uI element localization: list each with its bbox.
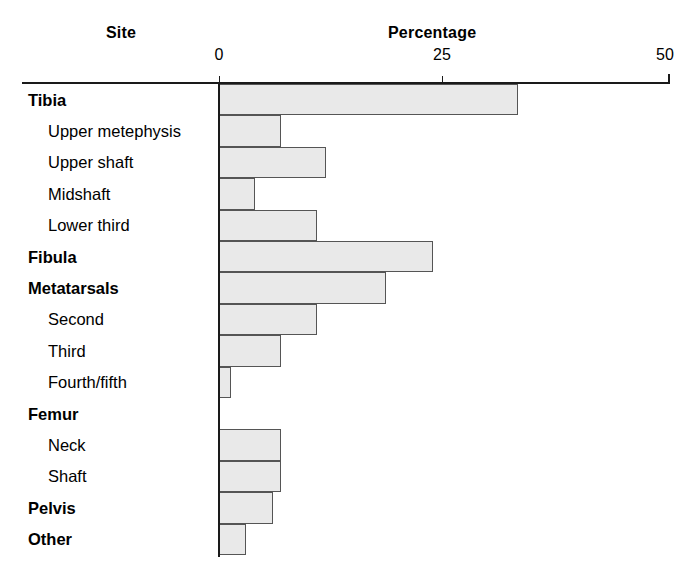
x-axis-end-tick (668, 74, 670, 84)
bar-row-label: Tibia (28, 91, 66, 108)
bar (219, 304, 317, 335)
percentage-column-title: Percentage (388, 24, 476, 42)
bar-row-label: Upper shaft (48, 154, 133, 171)
bar-row: Midshaft (0, 178, 686, 209)
bar-row-label: Femur (28, 405, 78, 422)
bar-row: Upper metephysis (0, 115, 686, 146)
site-column-title: Site (106, 24, 136, 42)
bar-row: Shaft (0, 461, 686, 492)
bar-row: Second (0, 304, 686, 335)
bar (219, 429, 281, 460)
bar (219, 115, 281, 146)
bar-row-label: Metatarsals (28, 280, 119, 297)
bar (219, 241, 433, 272)
bar (219, 335, 281, 366)
bar-row: Lower third (0, 210, 686, 241)
bar-row: Pelvis (0, 492, 686, 523)
bar (219, 367, 231, 398)
bar (219, 178, 255, 209)
bar-row: Fourth/fifth (0, 367, 686, 398)
bar-row-label: Third (48, 343, 86, 360)
bar-row-label: Other (28, 531, 72, 548)
zero-baseline (218, 84, 220, 557)
bar-row: Fibula (0, 241, 686, 272)
plot-area: TibiaUpper metephysisUpper shaftMidshaft… (0, 84, 686, 559)
x-axis-tick-label: 0 (215, 46, 224, 64)
bar-row-label: Shaft (48, 468, 87, 485)
bar (219, 210, 317, 241)
bar-row: Metatarsals (0, 272, 686, 303)
bar-row-label: Fibula (28, 248, 77, 265)
bar-chart: Site Percentage 02550 TibiaUpper metephy… (0, 0, 686, 571)
bar-row: Other (0, 524, 686, 555)
bar-row-label: Neck (48, 437, 86, 454)
x-axis-tick-label: 25 (433, 46, 451, 64)
bar-row-label: Lower third (48, 217, 130, 234)
bar-row-label: Midshaft (48, 186, 110, 203)
bar-row: Third (0, 335, 686, 366)
x-axis-tick-label: 50 (656, 46, 674, 64)
bar-row-label: Fourth/fifth (48, 374, 127, 391)
bar (219, 272, 386, 303)
bar (219, 492, 273, 523)
bar-row: Femur (0, 398, 686, 429)
bar (219, 84, 518, 115)
bar-row: Upper shaft (0, 147, 686, 178)
bar-row-label: Second (48, 311, 104, 328)
bar-row-label: Pelvis (28, 500, 76, 517)
bar-row: Tibia (0, 84, 686, 115)
bar (219, 147, 326, 178)
bar-row-label: Upper metephysis (48, 123, 181, 140)
bar (219, 461, 281, 492)
bar (219, 524, 246, 555)
bar-row: Neck (0, 429, 686, 460)
